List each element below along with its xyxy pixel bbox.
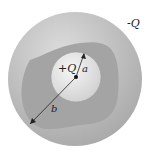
center-dot bbox=[74, 75, 78, 79]
radius-b-label: b bbox=[51, 104, 57, 114]
outer-charge-label: -Q bbox=[127, 18, 140, 29]
radius-a-label: a bbox=[82, 64, 88, 74]
inner-charge-label: +Q bbox=[58, 63, 76, 74]
